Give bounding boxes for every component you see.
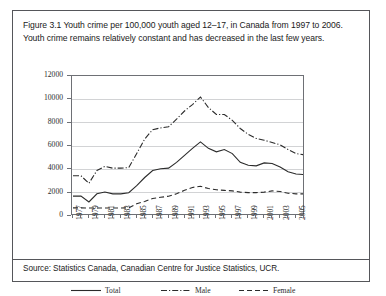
x-axis-tick — [247, 215, 248, 218]
x-axis-tick — [176, 215, 177, 218]
y-axis-label: 8000 — [17, 117, 63, 126]
y-axis-label: 10000 — [17, 93, 63, 102]
y-axis-label: 0 — [17, 210, 63, 219]
x-axis-tick — [152, 215, 153, 218]
x-axis-tick — [255, 215, 256, 218]
x-axis-tick — [287, 215, 288, 218]
series-lines — [72, 76, 304, 215]
x-axis-tick — [279, 215, 280, 218]
x-axis-tick — [112, 215, 113, 218]
x-axis-tick — [199, 215, 200, 218]
series-line-male — [73, 97, 304, 183]
y-axis-tick — [67, 122, 71, 123]
figure-caption: Figure 3.1 Youth crime per 100,000 youth… — [23, 19, 359, 44]
x-axis-tick — [263, 215, 264, 218]
x-axis-tick — [96, 215, 97, 218]
x-axis-tick — [144, 215, 145, 218]
chart-legend: TotalMaleFemale — [71, 283, 311, 296]
y-axis-tick — [67, 215, 71, 216]
chart-region: TotalMaleFemale 020004000600080001000012… — [13, 51, 369, 243]
x-axis-tick — [160, 215, 161, 218]
legend-item-male[interactable]: Male — [161, 283, 211, 296]
y-axis-tick — [67, 75, 71, 76]
legend-swatch-male — [161, 286, 191, 295]
legend-label: Male — [195, 286, 211, 295]
y-axis-label: 2000 — [17, 187, 63, 196]
y-axis-tick — [67, 192, 71, 193]
x-axis-tick — [295, 215, 296, 218]
x-axis-tick — [303, 215, 304, 218]
y-axis-label: 6000 — [17, 140, 63, 149]
x-axis-tick — [223, 215, 224, 218]
source-note: Source: Statistics Canada, Canadian Cent… — [23, 264, 279, 273]
legend-swatch-female — [239, 286, 269, 295]
x-axis-tick — [207, 215, 208, 218]
x-axis-tick — [271, 215, 272, 218]
legend-label: Female — [273, 286, 295, 295]
x-axis-tick — [72, 215, 73, 218]
x-axis-tick — [239, 215, 240, 218]
legend-item-female[interactable]: Female — [239, 283, 295, 296]
x-axis-tick — [215, 215, 216, 218]
y-axis-tick — [67, 98, 71, 99]
y-axis-label: 12000 — [17, 70, 63, 79]
x-axis-tick — [80, 215, 81, 218]
series-line-total — [73, 142, 304, 202]
x-axis-tick — [184, 215, 185, 218]
legend-item-total[interactable]: Total — [71, 283, 121, 296]
x-axis-tick — [191, 215, 192, 218]
x-axis-tick — [104, 215, 105, 218]
x-axis-tick — [168, 215, 169, 218]
x-axis-tick — [128, 215, 129, 218]
source-divider — [13, 259, 369, 260]
y-axis-tick — [67, 168, 71, 169]
legend-label: Total — [105, 286, 121, 295]
legend-swatch-total — [71, 286, 101, 295]
x-axis-tick — [231, 215, 232, 218]
x-axis-tick — [120, 215, 121, 218]
figure-card: Figure 3.1 Youth crime per 100,000 youth… — [12, 10, 370, 282]
x-axis-tick — [136, 215, 137, 218]
plot-area — [71, 75, 304, 215]
y-axis-tick — [67, 145, 71, 146]
y-axis-label: 4000 — [17, 163, 63, 172]
x-axis-tick — [88, 215, 89, 218]
